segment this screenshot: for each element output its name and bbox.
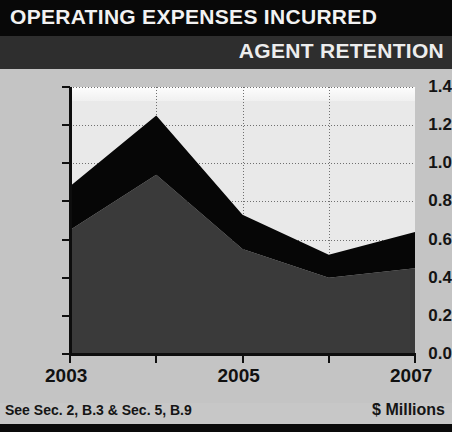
- y-tick: [62, 315, 70, 317]
- footnote-reference: See Sec. 2, B.3 & Sec. 5, B.9: [5, 402, 192, 418]
- x-tick: [414, 355, 416, 363]
- x-tick: [242, 355, 244, 363]
- y-tick-label: 1.2: [396, 116, 452, 133]
- x-tick: [328, 355, 330, 363]
- header-band: OPERATING EXPENSES INCURRED: [0, 0, 452, 36]
- y-tick-label: 0.2: [396, 307, 452, 324]
- y-tick: [62, 162, 70, 164]
- y-tick-label: 0.0: [396, 345, 452, 362]
- plot-canvas: [70, 87, 415, 354]
- x-tick-label: 2003: [45, 365, 87, 387]
- y-tick: [62, 200, 70, 202]
- y-tick: [62, 239, 70, 241]
- units-label: $ Millions: [372, 401, 445, 419]
- page-title: OPERATING EXPENSES INCURRED: [10, 5, 377, 29]
- y-tick: [62, 124, 70, 126]
- page-subtitle: AGENT RETENTION: [239, 39, 444, 63]
- x-tick-label: 2005: [218, 365, 260, 387]
- x-tick: [69, 355, 71, 363]
- chart-page: OPERATING EXPENSES INCURRED AGENT RETENT…: [0, 0, 452, 432]
- y-tick-label: 1.4: [396, 78, 452, 95]
- subheader-band: AGENT RETENTION: [0, 36, 452, 69]
- y-tick-label: 0.4: [396, 269, 452, 286]
- bottom-rule: [0, 424, 452, 432]
- y-tick: [62, 277, 70, 279]
- y-tick: [62, 86, 70, 88]
- y-tick-label: 1.0: [396, 154, 452, 171]
- y-tick-label: 0.8: [396, 192, 452, 209]
- y-tick-label: 0.6: [396, 231, 452, 248]
- x-tick-label: 2007: [390, 365, 432, 387]
- chart-area: 1.41.21.00.80.60.40.20.0 200320052007: [0, 69, 452, 403]
- x-tick: [155, 355, 157, 363]
- stacked-area-series: [70, 87, 415, 354]
- footer: See Sec. 2, B.3 & Sec. 5, B.9 $ Millions: [0, 400, 452, 424]
